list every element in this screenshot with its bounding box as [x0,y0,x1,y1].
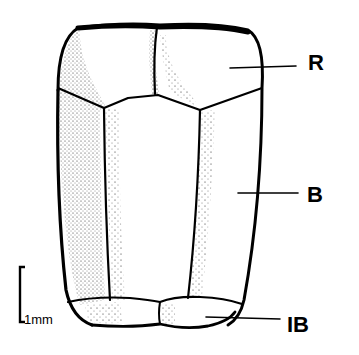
figure: R B IB 1mm [0,0,359,355]
stippling [58,30,215,326]
scale-bar-label: 1mm [24,313,53,326]
specimen-drawing [0,0,359,355]
label-r: R [308,52,324,74]
label-b: B [307,184,323,206]
label-ib: IB [287,314,309,336]
